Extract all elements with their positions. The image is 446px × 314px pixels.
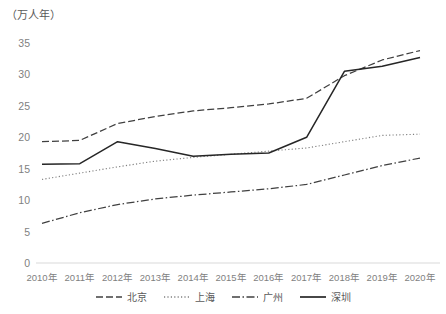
y-tick-label: 10 bbox=[4, 194, 30, 206]
series-line-深圳 bbox=[42, 57, 420, 164]
y-tick-label: 5 bbox=[4, 226, 30, 238]
legend-item-上海[interactable]: 上海 bbox=[163, 289, 215, 304]
chart-canvas bbox=[0, 0, 446, 314]
chart-legend: 北京上海广州深圳 bbox=[0, 289, 446, 304]
legend-label: 深圳 bbox=[331, 289, 351, 304]
legend-swatch-icon bbox=[163, 293, 191, 301]
y-tick-label: 25 bbox=[4, 100, 30, 112]
legend-label: 北京 bbox=[127, 289, 147, 304]
legend-label: 上海 bbox=[195, 289, 215, 304]
x-tick-label: 2020年 bbox=[397, 270, 443, 284]
legend-item-深圳[interactable]: 深圳 bbox=[299, 289, 351, 304]
y-tick-label: 15 bbox=[4, 163, 30, 175]
legend-item-广州[interactable]: 广州 bbox=[231, 289, 283, 304]
plot-area bbox=[0, 0, 446, 314]
series-line-广州 bbox=[42, 158, 420, 223]
series-line-上海 bbox=[42, 134, 420, 179]
y-tick-label: 0 bbox=[4, 257, 30, 269]
y-tick-label: 30 bbox=[4, 68, 30, 80]
y-tick-label: 35 bbox=[4, 37, 30, 49]
line-chart: （万人年） 35302520151050 2010年2011年2012年2013… bbox=[0, 0, 446, 314]
y-tick-label: 20 bbox=[4, 131, 30, 143]
legend-swatch-icon bbox=[231, 293, 259, 301]
series-line-北京 bbox=[42, 51, 420, 142]
legend-swatch-icon bbox=[95, 293, 123, 301]
legend-label: 广州 bbox=[263, 289, 283, 304]
legend-swatch-icon bbox=[299, 293, 327, 301]
legend-item-北京[interactable]: 北京 bbox=[95, 289, 147, 304]
